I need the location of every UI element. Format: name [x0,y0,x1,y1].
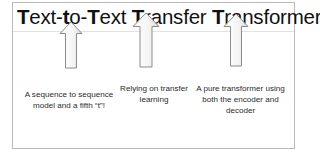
title-segment-5: ext [100,5,132,28]
title-segment-4: T [87,5,99,28]
title-segment-0: T [17,5,29,28]
slide-frame: Text-to-Text Transfer Transformer [12,2,295,149]
slide-canvas: Text-to-Text Transfer Transformer [0,0,306,157]
up-arrow-icon-2 [131,11,161,69]
up-arrow-icon-1 [58,20,84,70]
caption-2: Relying on transfer learning [118,83,190,105]
caption-1: A sequence to sequence model and a fifth… [21,89,117,111]
caption-3: A pure transformer using both the encode… [193,83,288,117]
up-arrow-icon-3 [222,12,250,68]
